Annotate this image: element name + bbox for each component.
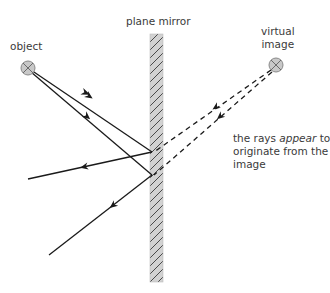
reflected-rays xyxy=(28,152,152,255)
note-line2: originate from the xyxy=(233,145,330,158)
note-line1-pre: the rays xyxy=(233,132,279,144)
virtual-arrow-icons xyxy=(210,102,225,122)
object-label: object xyxy=(10,40,42,53)
virtual-image-label-line2: image xyxy=(261,38,295,51)
note-line1-post: to xyxy=(316,132,330,144)
plane-mirror xyxy=(150,34,163,282)
note-line1: the rays appear to xyxy=(233,132,330,145)
virtual-image-symbol-icon xyxy=(269,58,283,72)
note-line1-emphasis: appear xyxy=(279,132,316,144)
mirror-label: plane mirror xyxy=(126,15,191,28)
incident-rays xyxy=(31,70,152,175)
object-symbol-icon xyxy=(21,61,35,75)
note-line3: image xyxy=(233,158,330,171)
reflected-arrow-icons xyxy=(79,163,118,211)
annotation-note: the rays appear to originate from the im… xyxy=(233,132,330,171)
virtual-image-label-line1: virtual xyxy=(261,25,295,38)
virtual-image-label: virtual image xyxy=(261,25,295,51)
